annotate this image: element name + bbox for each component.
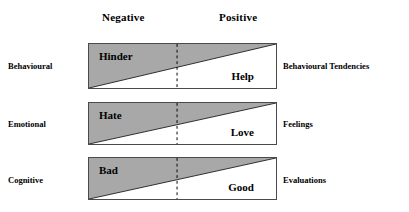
pole-word-positive-emotional: Love — [231, 127, 254, 138]
row-right-label-cognitive: Evaluations — [283, 176, 326, 185]
column-header-negative: Negative — [102, 12, 145, 23]
pole-word-positive-cognitive: Good — [228, 182, 254, 193]
row-left-label-cognitive: Cognitive — [8, 176, 43, 185]
pole-word-negative-cognitive: Bad — [99, 165, 118, 176]
row-bar-cognitive: Bad Good — [88, 157, 277, 200]
row-right-label-emotional: Feelings — [283, 120, 313, 129]
pole-word-positive-behavioural: Help — [231, 71, 254, 82]
attitude-components-diagram: Negative Positive Behavioural Hinder Hel… — [0, 0, 409, 212]
row-bar-behavioural: Hinder Help — [88, 43, 277, 89]
column-header-positive: Positive — [219, 12, 257, 23]
row-bar-emotional: Hate Love — [88, 102, 277, 145]
row-left-label-emotional: Emotional — [8, 120, 46, 129]
pole-word-negative-emotional: Hate — [99, 110, 122, 121]
row-left-label-behavioural: Behavioural — [8, 62, 52, 71]
pole-word-negative-behavioural: Hinder — [99, 51, 133, 62]
row-right-label-behavioural: Behavioural Tendencies — [283, 62, 369, 71]
